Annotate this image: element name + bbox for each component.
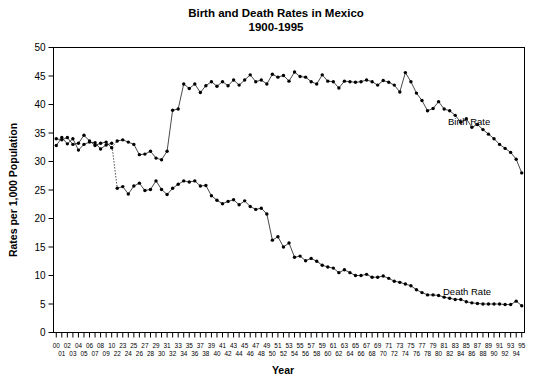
data-point	[276, 75, 279, 78]
x-tick-label: 52	[280, 350, 288, 357]
data-point	[354, 81, 357, 84]
data-point	[304, 75, 307, 78]
x-tick-label: 69	[374, 342, 382, 349]
data-point	[82, 134, 85, 137]
data-point	[104, 143, 107, 146]
x-axis-tick-labels-top-row: 0002040608102325272931333537394143454749…	[53, 342, 526, 349]
x-tick-label: 03	[69, 350, 77, 357]
data-point	[298, 75, 301, 78]
data-point	[193, 179, 196, 182]
x-tick-label: 78	[424, 350, 432, 357]
x-tick-label: 32	[169, 350, 177, 357]
x-tick-label: 73	[396, 342, 404, 349]
data-point	[215, 199, 218, 202]
data-point	[160, 158, 163, 161]
data-point	[487, 302, 490, 305]
data-point	[243, 199, 246, 202]
data-point	[431, 293, 434, 296]
data-point	[442, 107, 445, 110]
x-tick-label: 46	[247, 350, 255, 357]
data-point	[260, 207, 263, 210]
y-tick-label: 50	[34, 42, 46, 53]
data-point	[420, 291, 423, 294]
data-point	[409, 284, 412, 287]
data-point	[343, 268, 346, 271]
data-point	[271, 73, 274, 76]
data-point	[293, 70, 296, 73]
x-tick-label: 50	[269, 350, 277, 357]
x-tick-label: 91	[496, 342, 504, 349]
y-axis-title: Rates per 1,000 Population	[7, 123, 19, 257]
data-point	[492, 137, 495, 140]
data-point	[176, 107, 179, 110]
data-point	[132, 143, 135, 146]
data-point	[465, 300, 468, 303]
data-point	[254, 208, 257, 211]
data-point	[176, 183, 179, 186]
data-point	[210, 80, 213, 83]
data-point	[204, 184, 207, 187]
x-tick-label: 24	[125, 350, 133, 357]
data-point	[60, 136, 63, 139]
data-point	[426, 293, 429, 296]
x-tick-label: 43	[230, 342, 238, 349]
data-point	[426, 109, 429, 112]
x-tick-label: 85	[463, 342, 471, 349]
data-point	[387, 277, 390, 280]
y-tick-label: 0	[40, 327, 46, 338]
data-point	[503, 147, 506, 150]
data-point	[55, 144, 58, 147]
y-tick-label: 20	[34, 213, 46, 224]
data-point	[210, 194, 213, 197]
x-tick-label: 09	[103, 350, 111, 357]
x-tick-label: 31	[164, 342, 172, 349]
data-point	[332, 266, 335, 269]
data-point	[420, 99, 423, 102]
y-tick-label: 10	[34, 270, 46, 281]
data-point	[154, 156, 157, 159]
data-point	[293, 256, 296, 259]
data-point	[315, 260, 318, 263]
data-point	[348, 271, 351, 274]
x-tick-label: 01	[58, 350, 66, 357]
chart-container: Birth and Death Rates in Mexico 1900-199…	[0, 0, 552, 380]
chart-title: Birth and Death Rates in Mexico	[188, 7, 364, 19]
data-point	[199, 184, 202, 187]
data-point	[454, 298, 457, 301]
x-tick-label: 59	[319, 342, 327, 349]
data-point	[221, 202, 224, 205]
data-point	[415, 288, 418, 291]
data-point	[398, 281, 401, 284]
x-tick-label: 58	[313, 350, 321, 357]
x-tick-label: 36	[191, 350, 199, 357]
data-point	[71, 143, 74, 146]
data-point	[287, 79, 290, 82]
data-point	[232, 198, 235, 201]
x-tick-label: 83	[452, 342, 460, 349]
data-point	[265, 212, 268, 215]
data-point	[492, 302, 495, 305]
x-tick-label: 40	[213, 350, 221, 357]
x-tick-label: 77	[418, 342, 426, 349]
x-tick-label: 26	[136, 350, 144, 357]
data-point	[165, 193, 168, 196]
x-tick-label: 66	[357, 350, 365, 357]
data-point	[204, 84, 207, 87]
data-point	[265, 82, 268, 85]
data-point	[132, 184, 135, 187]
data-point	[171, 109, 174, 112]
data-point	[382, 79, 385, 82]
x-tick-label: 04	[75, 342, 83, 349]
data-point	[321, 264, 324, 267]
data-point	[470, 301, 473, 304]
data-point	[254, 80, 257, 83]
data-point	[393, 280, 396, 283]
data-point	[127, 140, 130, 143]
data-point	[188, 87, 191, 90]
data-point	[171, 187, 174, 190]
data-point	[237, 83, 240, 86]
x-tick-label: 62	[335, 350, 343, 357]
x-tick-label: 49	[263, 342, 271, 349]
x-tick-label: 67	[363, 342, 371, 349]
data-point	[226, 200, 229, 203]
